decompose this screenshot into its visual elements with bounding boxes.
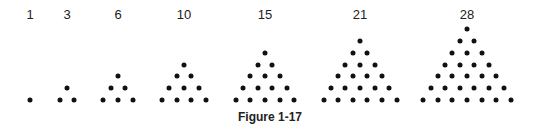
dot	[421, 98, 426, 103]
dot	[196, 86, 201, 91]
dot	[182, 86, 187, 91]
dot	[465, 27, 470, 32]
triangle-label: 1	[26, 7, 33, 22]
dot	[255, 86, 260, 91]
dot	[263, 74, 268, 79]
dot	[123, 86, 128, 91]
dot	[465, 98, 470, 103]
dot	[457, 86, 462, 91]
dot	[160, 98, 165, 103]
dot	[65, 86, 70, 91]
dot	[277, 74, 282, 79]
dot	[472, 62, 477, 67]
dot	[508, 98, 513, 103]
triangle-label: 28	[460, 7, 474, 22]
dot	[116, 98, 121, 103]
dot	[443, 86, 448, 91]
dot	[108, 86, 113, 91]
dot	[350, 98, 355, 103]
dot	[350, 50, 355, 55]
dot	[182, 62, 187, 67]
dot	[321, 98, 326, 103]
triangle-label: 21	[353, 7, 367, 22]
triangle-label: 15	[258, 7, 272, 22]
dot	[72, 98, 77, 103]
dot	[372, 86, 377, 91]
dot	[465, 50, 470, 55]
dot	[365, 74, 370, 79]
dot	[450, 98, 455, 103]
dot	[263, 50, 268, 55]
dot	[57, 98, 62, 103]
dot	[241, 86, 246, 91]
dot	[379, 98, 384, 103]
dot	[270, 86, 275, 91]
dot	[443, 62, 448, 67]
dot	[189, 74, 194, 79]
dot	[350, 74, 355, 79]
dot	[479, 98, 484, 103]
dot	[387, 86, 392, 91]
dot	[336, 74, 341, 79]
dot	[479, 50, 484, 55]
dot	[394, 98, 399, 103]
dot	[270, 62, 275, 67]
dot	[472, 86, 477, 91]
dot	[203, 98, 208, 103]
dot	[372, 62, 377, 67]
dot	[457, 62, 462, 67]
dot	[116, 74, 121, 79]
dot	[486, 62, 491, 67]
dot	[457, 39, 462, 44]
dot	[336, 98, 341, 103]
dot	[248, 74, 253, 79]
figure-caption: Figure 1-17	[238, 110, 302, 124]
dot	[358, 62, 363, 67]
dot	[263, 98, 268, 103]
triangle-label: 6	[114, 7, 121, 22]
dot	[428, 86, 433, 91]
triangle-label: 3	[63, 7, 70, 22]
dot	[435, 74, 440, 79]
dot	[450, 50, 455, 55]
dot	[486, 86, 491, 91]
triangle-label: 10	[177, 7, 191, 22]
dot	[189, 98, 194, 103]
dot	[472, 39, 477, 44]
dot	[358, 39, 363, 44]
dot	[233, 98, 238, 103]
dot	[174, 98, 179, 103]
dot	[284, 86, 289, 91]
dot	[494, 98, 499, 103]
dot	[292, 98, 297, 103]
dot	[130, 98, 135, 103]
dot	[450, 74, 455, 79]
dot	[343, 86, 348, 91]
dot	[365, 50, 370, 55]
dot	[435, 98, 440, 103]
dot	[494, 74, 499, 79]
dot	[255, 62, 260, 67]
dot	[479, 74, 484, 79]
dot	[343, 62, 348, 67]
dot	[501, 86, 506, 91]
dot	[248, 98, 253, 103]
dot	[328, 86, 333, 91]
dot	[174, 74, 179, 79]
dot	[379, 74, 384, 79]
dot	[358, 86, 363, 91]
dot	[277, 98, 282, 103]
dot	[465, 74, 470, 79]
dot	[167, 86, 172, 91]
dot	[365, 98, 370, 103]
dot	[28, 98, 33, 103]
dot	[101, 98, 106, 103]
